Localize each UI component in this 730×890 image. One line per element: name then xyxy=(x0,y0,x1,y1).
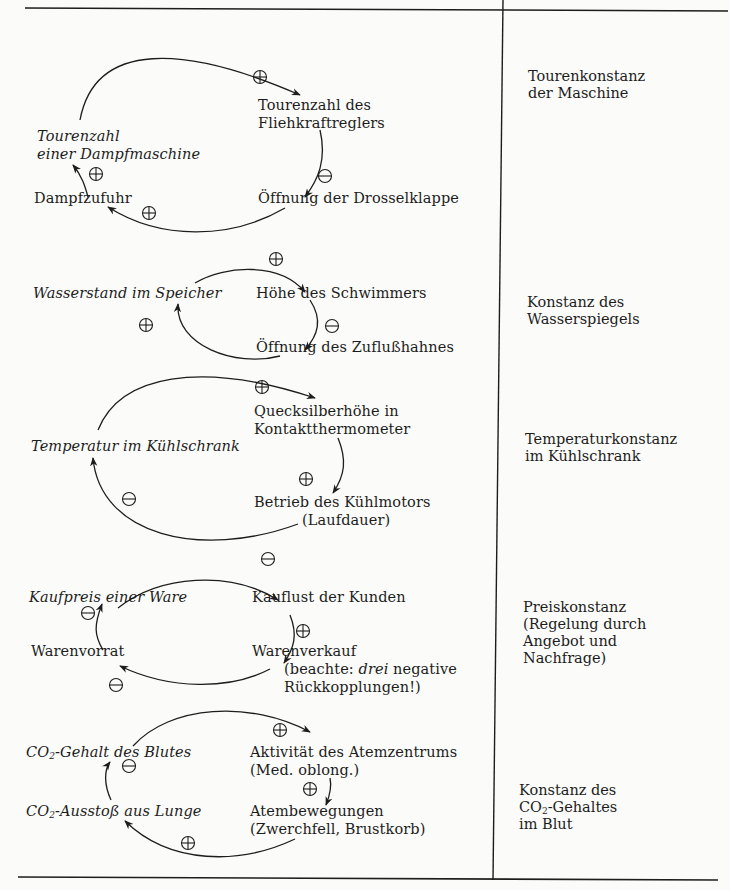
result-line: CO2-Gehaltes xyxy=(519,799,617,816)
node-atemzentrum-line1: Aktivität des Atemzentrums xyxy=(250,744,457,761)
note-text: (beachte: xyxy=(284,661,359,677)
node-wasserstand: Wasserstand im Speicher xyxy=(33,285,222,302)
result-line: Konstanz des xyxy=(519,782,617,799)
column-divider xyxy=(493,0,503,880)
note-emphasis: drei xyxy=(359,661,389,677)
co2-text: -Ausstoß aus Lunge xyxy=(55,803,201,819)
result-wasserspiegel: Konstanz des Wasserspiegels xyxy=(527,294,640,328)
node-quecksilberhoehe-line1: Quecksilberhöhe in xyxy=(254,403,399,420)
node-dampfzufuhr: Dampfzufuhr xyxy=(34,190,132,207)
bottom-rule xyxy=(18,877,718,880)
node-kuehlmotor-line2: (Laufdauer) xyxy=(302,512,390,529)
node-tourenzahl-dampfmaschine-line1: Tourenzahl xyxy=(37,128,120,145)
result-line: im Blut xyxy=(519,816,617,833)
result-tourenkonstanz: Tourenkonstanz der Maschine xyxy=(528,68,645,102)
node-warenverkauf: Warenverkauf xyxy=(252,643,356,660)
node-kuehlmotor-line1: Betrieb des Kühlmotors xyxy=(254,494,430,511)
co2-text: CO xyxy=(26,744,49,760)
node-zuflusshahn: Öffnung des Zuflußhahnes xyxy=(256,339,454,356)
node-co2-gehalt: CO2-Gehalt des Blutes xyxy=(26,744,191,761)
top-rule xyxy=(25,8,728,11)
sign-circles xyxy=(82,71,339,850)
feedback-loop-table: Tourenzahl einer Dampfmaschine Tourenzah… xyxy=(0,0,730,890)
node-co2-ausstoss: CO2-Ausstoß aus Lunge xyxy=(26,803,201,820)
node-quecksilberhoehe-line2: Kontaktthermometer xyxy=(254,421,410,438)
co2-text: CO xyxy=(26,803,49,819)
result-temperaturkonstanz: Temperaturkonstanz im Kühlschrank xyxy=(525,431,677,465)
node-atembewegungen-line1: Atembewegungen xyxy=(250,803,384,820)
node-drosselklappe: Öffnung der Drosselklappe xyxy=(258,190,459,207)
node-schwimmer: Höhe des Schwimmers xyxy=(256,285,427,302)
result-preiskonstanz: Preiskonstanz (Regelung durch Angebot un… xyxy=(523,599,646,667)
co2-text: CO xyxy=(519,799,542,815)
node-warenverkauf-note-line2: Rückkopplungen!) xyxy=(284,679,421,696)
node-temperatur-kuehlschrank: Temperatur im Kühlschrank xyxy=(31,438,240,455)
node-tourenzahl-fliehkraftregler-line1: Tourenzahl des xyxy=(258,97,371,114)
node-tourenzahl-dampfmaschine-line2: einer Dampfmaschine xyxy=(37,146,200,163)
node-atemzentrum-line2: (Med. oblong.) xyxy=(250,762,359,779)
node-tourenzahl-fliehkraftregler-line2: Fliehkraftreglers xyxy=(258,115,385,132)
co2-text: -Gehalt des Blutes xyxy=(55,744,191,760)
node-kauflust: Kauflust der Kunden xyxy=(252,589,406,606)
node-warenvorrat: Warenvorrat xyxy=(31,643,125,660)
node-warenverkauf-note-line1: (beachte: drei negative xyxy=(284,661,457,678)
node-kaufpreis: Kaufpreis einer Ware xyxy=(29,589,187,606)
note-text: negative xyxy=(388,661,457,677)
node-atembewegungen-line2: (Zwerchfell, Brustkorb) xyxy=(250,821,425,838)
result-co2-konstanz: Konstanz des CO2-Gehaltes im Blut xyxy=(519,782,617,833)
co2-text: -Gehaltes xyxy=(548,799,618,815)
